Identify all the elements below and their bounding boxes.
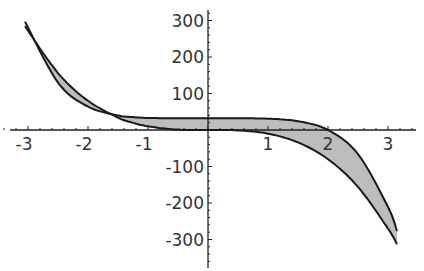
shaded-region-between-curves xyxy=(25,22,397,245)
axes xyxy=(4,10,416,268)
x-tick-label: 3 xyxy=(383,134,394,154)
x-tick-label: -3 xyxy=(16,134,33,154)
y-tick-label: 200 xyxy=(172,47,204,67)
x-tick-label: 1 xyxy=(263,134,274,154)
function-plot: -3-2-1123 300200100-100-200-300 xyxy=(0,0,424,271)
x-tick-label: -2 xyxy=(76,134,93,154)
x-tick-label: -1 xyxy=(136,134,153,154)
y-tick-label: 300 xyxy=(172,11,204,31)
x-tick-label: 2 xyxy=(323,134,334,154)
y-tick-label: -300 xyxy=(165,230,204,250)
y-tick-label: 100 xyxy=(172,84,204,104)
y-tick-label: -200 xyxy=(165,193,204,213)
y-tick-label: -100 xyxy=(165,157,204,177)
